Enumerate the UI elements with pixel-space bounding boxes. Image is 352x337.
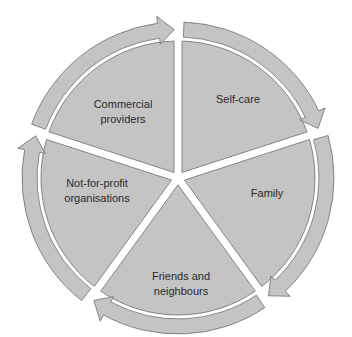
label-self-care: Self-care [216, 93, 260, 105]
care-cycle-diagram: Self-care Family Friends andneighbours N… [0, 0, 352, 337]
label-family: Family [251, 187, 284, 199]
